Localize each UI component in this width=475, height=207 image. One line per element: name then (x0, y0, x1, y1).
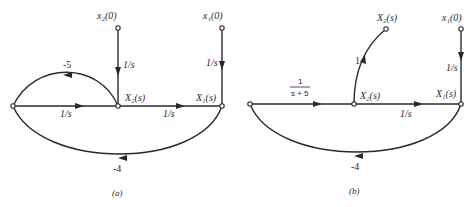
label-b-x1: X₁(s) (435, 88, 457, 100)
diagram-b: 1 s + 5 1/s 1 1/s -4 X₂(s) X₁(s) X₂(s) x… (248, 12, 464, 196)
node-a-x2 (116, 104, 120, 108)
gain-a-feedback-4: -4 (113, 163, 121, 174)
node-b-x1init (459, 27, 463, 31)
label-b-x1init: x₁(0) (441, 12, 462, 24)
diagram-a: 1/s 1/s 1/s 1/s -5 -4 X₂(s) X₁(s) x₂(0) … (11, 10, 225, 198)
gain-b-x2-to-x1: 1/s (400, 108, 412, 119)
gain-a-x1init: 1/s (206, 57, 218, 68)
arrow-icon (219, 61, 225, 70)
caption-a: (a) (112, 188, 123, 198)
node-a-x2init (116, 26, 120, 30)
arrow-icon (414, 101, 423, 107)
arrow-icon (118, 155, 127, 161)
arrow-icon (176, 103, 185, 109)
node-b-x1 (459, 102, 463, 106)
gain-b-den: s + 5 (291, 89, 309, 98)
label-a-x2init: x₂(0) (96, 10, 117, 22)
node-a-x1init (220, 26, 224, 30)
arrow-icon (75, 103, 84, 109)
signal-flow-graphs: 1/s 1/s 1/s 1/s -5 -4 X₂(s) X₁(s) x₂(0) … (0, 0, 475, 207)
node-a-x1 (220, 104, 224, 108)
gain-b-feedback-4: -4 (351, 161, 359, 172)
node-b-x2 (352, 102, 356, 106)
arrow-icon (115, 67, 121, 76)
gain-a-feedback-5: -5 (63, 59, 71, 70)
arrow-icon (354, 153, 363, 159)
node-a-left (11, 104, 15, 108)
branch-a-feedback-5 (13, 72, 118, 106)
gain-b-x2-to-out: 1 (355, 55, 360, 66)
arrow-icon (313, 101, 322, 107)
gain-b-x1init: 1/s (446, 62, 458, 73)
gain-b-num: 1 (298, 77, 303, 86)
gain-a-x2init: 1/s (123, 59, 135, 70)
node-b-x2out (384, 27, 388, 31)
branch-a-feedback-4 (13, 106, 222, 154)
label-a-x2: X₂(s) (124, 92, 146, 104)
gain-a-left-to-x2: 1/s (60, 108, 72, 119)
node-b-left (248, 102, 252, 106)
caption-b: (b) (349, 186, 360, 196)
label-a-x1: X₁(s) (195, 92, 217, 104)
gain-a-x2-to-x1: 1/s (163, 108, 175, 119)
branch-b-feedback-4 (250, 104, 461, 152)
label-a-x1init: x₁(0) (202, 10, 223, 22)
label-b-x2: X₂(s) (359, 90, 381, 102)
label-b-x2out: X₂(s) (376, 12, 398, 24)
arrow-icon (458, 52, 464, 61)
